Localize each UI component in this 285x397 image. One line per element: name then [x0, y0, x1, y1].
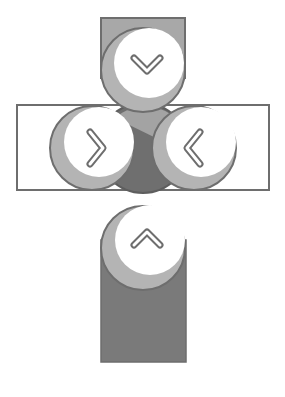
up-button[interactable]	[101, 205, 185, 290]
dpad-diagram	[0, 0, 285, 397]
right-button[interactable]	[50, 106, 134, 190]
down-button[interactable]	[101, 28, 185, 112]
left-button[interactable]	[152, 106, 236, 190]
